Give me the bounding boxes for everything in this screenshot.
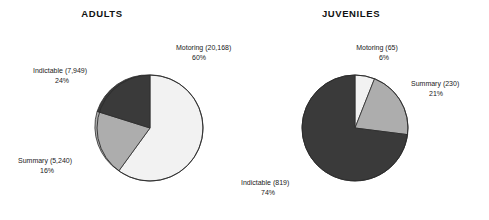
pie-adults bbox=[0, 0, 244, 220]
pie-label-adults-motoring-text: Motoring (20,168) bbox=[176, 44, 231, 51]
pie-label-juveniles-indictable: Indictable (819) 74% bbox=[241, 178, 289, 197]
chart-panel-adults: ADULTS Motoring (20,168) 60% Indictable … bbox=[0, 0, 244, 220]
pie-label-juveniles-motoring: Motoring (65) 6% bbox=[337, 43, 417, 62]
pie-label-juveniles-summary-text: Summary (230) bbox=[411, 80, 459, 87]
pie-label-juveniles-summary-pct: 21% bbox=[411, 89, 459, 99]
pie-label-juveniles-summary: Summary (230) 21% bbox=[411, 79, 459, 98]
pie-label-juveniles-indictable-text: Indictable (819) bbox=[241, 179, 289, 186]
pie-label-adults-summary: Summary (5,240) 16% bbox=[18, 156, 72, 175]
pie-label-adults-motoring: Motoring (20,168) 60% bbox=[176, 43, 231, 62]
pie-label-adults-summary-text: Summary (5,240) bbox=[18, 157, 72, 164]
pie-label-juveniles-indictable-pct: 74% bbox=[241, 188, 289, 198]
pie-label-juveniles-motoring-pct: 6% bbox=[337, 53, 417, 63]
pie-label-adults-summary-pct: 16% bbox=[18, 166, 72, 176]
pie-label-adults-indictable-pct: 24% bbox=[33, 76, 87, 86]
pie-label-juveniles-motoring-text: Motoring (65) bbox=[356, 44, 398, 51]
chart-panel-juveniles: JUVENILES Motoring (65) 6% Summary (230)… bbox=[245, 0, 489, 220]
pie-label-adults-indictable: Indictable (7,949) 24% bbox=[33, 66, 87, 85]
pie-chart-figure: ADULTS Motoring (20,168) 60% Indictable … bbox=[0, 0, 489, 220]
pie-label-adults-motoring-pct: 60% bbox=[176, 53, 231, 63]
pie-label-adults-indictable-text: Indictable (7,949) bbox=[33, 67, 87, 74]
